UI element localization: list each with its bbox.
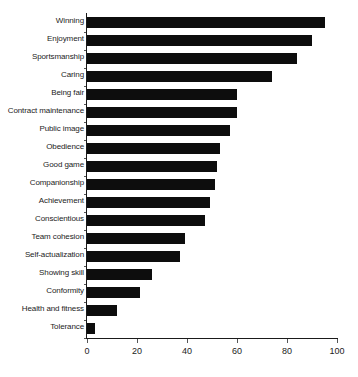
bar [87,323,95,334]
value-tick [287,339,288,343]
bar [87,107,237,118]
category-label: Conscientious [0,214,84,223]
bar [87,179,215,190]
bar-row [87,284,337,302]
bar-row [87,32,337,50]
bar-row [87,104,337,122]
bar-row [87,140,337,158]
bar-row [87,50,337,68]
category-label: Achievement [0,196,84,205]
bar-row [87,302,337,320]
bar [87,215,205,226]
category-label: Good game [0,160,84,169]
bar [87,143,220,154]
bar [87,251,180,262]
bar-row [87,230,337,248]
bar-row [87,68,337,86]
bar [87,89,237,100]
bar [87,233,185,244]
category-label: Caring [0,70,84,79]
bar-row [87,158,337,176]
category-label: Self-actualization [0,250,84,259]
value-tick [137,339,138,343]
bar-row [87,320,337,338]
value-tick-label: 0 [72,346,102,357]
value-tick-label: 80 [272,346,302,357]
bar [87,197,210,208]
bar [87,161,217,172]
category-label: Showing skill [0,268,84,277]
bar-row [87,266,337,284]
bar-chart: WinningEnjoymentSportsmanshipCaringBeing… [0,0,358,377]
bar [87,35,312,46]
category-label: Conformity [0,286,84,295]
category-label: Obedience [0,142,84,151]
x-axis-line [86,338,338,339]
bar-row [87,212,337,230]
bar-row [87,14,337,32]
category-label: Enjoyment [0,34,84,43]
value-tick [237,339,238,343]
value-tick-label: 100 [322,346,352,357]
value-tick-label: 60 [222,346,252,357]
category-label: Contract maintenance [0,106,84,115]
category-label: Being fair [0,88,84,97]
bar [87,53,297,64]
category-axis-labels: WinningEnjoymentSportsmanshipCaringBeing… [0,14,84,338]
bar [87,269,152,280]
value-tick [337,339,338,343]
bar-row [87,122,337,140]
bar-row [87,86,337,104]
category-label: Team cohesion [0,232,84,241]
category-label: Companionship [0,178,84,187]
value-tick [187,339,188,343]
bar [87,17,325,28]
bar-row [87,248,337,266]
category-label: Health and fitness [0,304,84,313]
category-label: Sportsmanship [0,52,84,61]
bar [87,71,272,82]
bar [87,305,117,316]
value-tick [87,339,88,343]
plot-area [87,14,337,338]
bar [87,125,230,136]
bar-row [87,176,337,194]
bar [87,287,140,298]
category-label: Winning [0,16,84,25]
category-label: Tolerance [0,322,84,331]
bar-row [87,194,337,212]
category-label: Public image [0,124,84,133]
value-tick-label: 20 [122,346,152,357]
value-tick-label: 40 [172,346,202,357]
